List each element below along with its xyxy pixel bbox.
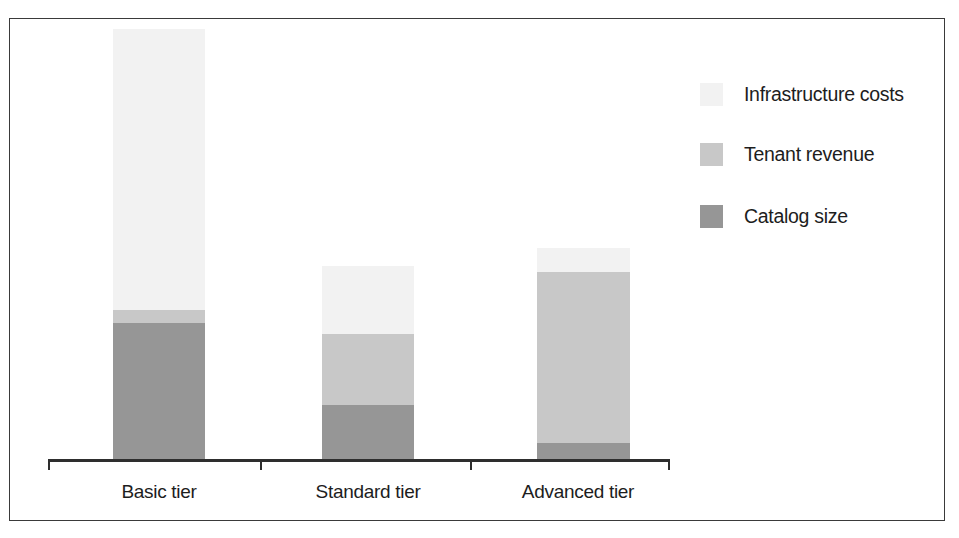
bar-standard-tier[interactable] <box>322 266 414 460</box>
legend-item-tenant-revenue[interactable]: Tenant revenue <box>700 143 874 166</box>
chart-figure: Basic tier Standard tier Advanced tier I… <box>0 0 959 538</box>
legend-swatch-icon <box>700 143 723 166</box>
plot-area: Basic tier Standard tier Advanced tier I… <box>0 0 959 538</box>
legend-label: Catalog size <box>744 205 848 228</box>
legend-item-catalog-size[interactable]: Catalog size <box>700 205 848 228</box>
bar-segment-tenant-revenue <box>537 272 630 443</box>
bar-segment-infrastructure-costs <box>537 248 630 272</box>
bar-advanced-tier[interactable] <box>537 248 630 460</box>
bar-segment-catalog-size <box>537 443 630 460</box>
x-axis-line <box>48 459 670 462</box>
x-axis-label-advanced-tier: Advanced tier <box>468 481 688 503</box>
legend-label: Tenant revenue <box>744 143 874 166</box>
legend-swatch-icon <box>700 205 723 228</box>
x-axis-label-basic-tier: Basic tier <box>49 481 269 503</box>
bar-segment-tenant-revenue <box>322 334 414 405</box>
legend-label: Infrastructure costs <box>744 83 904 106</box>
bar-segment-catalog-size <box>322 405 414 460</box>
legend-swatch-icon <box>700 83 723 106</box>
x-axis-tick <box>668 459 670 470</box>
bar-basic-tier[interactable] <box>113 29 205 460</box>
x-axis-tick <box>260 459 262 470</box>
x-axis-tick <box>48 459 50 470</box>
bar-segment-infrastructure-costs <box>322 266 414 334</box>
bar-segment-tenant-revenue <box>113 310 205 323</box>
x-axis-tick <box>470 459 472 470</box>
bar-segment-catalog-size <box>113 323 205 460</box>
bar-segment-infrastructure-costs <box>113 29 205 310</box>
legend-item-infrastructure-costs[interactable]: Infrastructure costs <box>700 83 904 106</box>
x-axis-label-standard-tier: Standard tier <box>258 481 478 503</box>
